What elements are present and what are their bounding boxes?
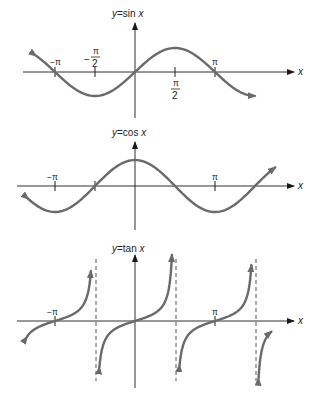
cos-label-pi: π [212,172,218,182]
sin-label-neg-half-pi-sign: − [84,54,90,65]
trig-function-graphs: y=sin x x −π − π 2 π 2 π y=cos x x −π π … [0,0,315,405]
tan-label-pi: π [212,307,218,317]
cos-graph: y=cos x x −π π [17,127,304,230]
sin-label-pi: π [212,57,218,67]
cos-label-neg-pi: −π [47,172,58,182]
tan-graph: y=tan x x −π π [17,243,304,388]
tan-branch-1 [27,271,91,337]
cos-title: y=cos x [111,127,147,138]
tan-title: y=tan x [111,243,146,254]
sin-x-axis-label: x [297,66,304,77]
sin-label-neg-pi: −π [50,57,61,67]
sin-label-half-pi-den: 2 [172,90,178,101]
tan-label-neg-pi: −π [47,307,58,317]
tan-branch-4 [259,332,272,379]
sin-label-neg-half-pi-den: 2 [92,58,98,69]
tan-x-axis-label: x [297,315,304,326]
sin-label-neg-half-pi-num: π [93,46,99,56]
tan-branch-2 [99,255,172,367]
cos-x-axis-label: x [297,180,304,191]
sin-title: y=sin x [111,8,144,19]
sin-label-half-pi-num: π [173,78,179,88]
sin-graph: y=sin x x −π − π 2 π 2 π [23,8,304,118]
